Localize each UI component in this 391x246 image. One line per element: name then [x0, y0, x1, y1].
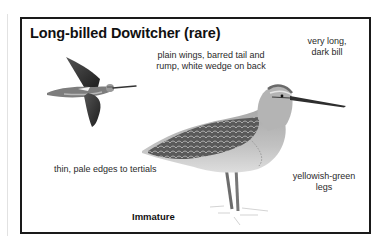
age-caption: Immature: [132, 211, 175, 222]
annotation-tertials: thin, pale edges to tertials: [54, 164, 214, 175]
standing-bird-illustration: [140, 79, 350, 229]
annotation-wings: plain wings, barred tail and rump, white…: [146, 50, 276, 72]
plate-title: Long-billed Dowitcher (rare): [30, 25, 221, 41]
page-margin-rule: [7, 14, 8, 236]
annotation-legs: yellowish-green legs: [284, 171, 364, 193]
flying-bird-illustration: [44, 57, 139, 127]
annotation-bill: very long, dark bill: [292, 36, 362, 58]
field-guide-plate: Long-billed Dowitcher (rare): [20, 17, 371, 234]
